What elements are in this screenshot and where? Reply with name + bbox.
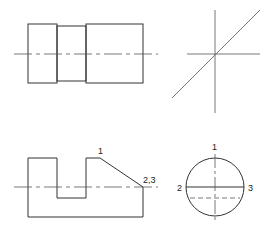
circle-label-3: 3 <box>248 183 253 193</box>
front-view-bottom <box>14 158 158 217</box>
technical-drawing: 1 2,3 1 2 3 <box>0 0 270 229</box>
middle-neck-segment <box>57 26 86 81</box>
slotted-profile-outline <box>28 158 143 217</box>
left-cylinder-segment <box>28 24 57 83</box>
construction-lines <box>172 10 260 113</box>
right-cylinder-segment <box>86 24 143 83</box>
front-view-top <box>14 24 158 83</box>
point-label-2-3: 2,3 <box>143 175 156 185</box>
circle-label-1: 1 <box>212 142 217 152</box>
circle-label-2: 2 <box>177 183 182 193</box>
side-view-bottom <box>186 154 244 220</box>
point-label-1: 1 <box>98 146 103 156</box>
